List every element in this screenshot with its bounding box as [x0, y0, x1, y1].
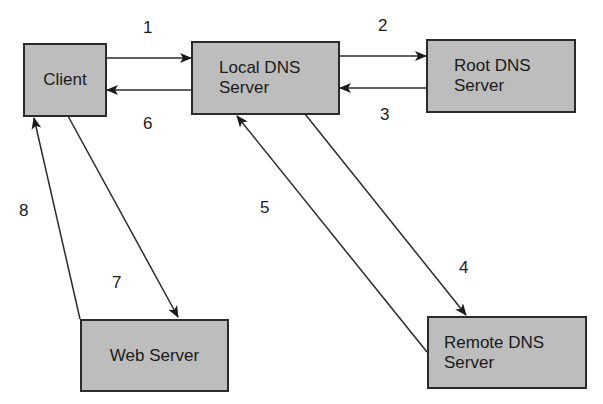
client-label: Client [43, 70, 86, 90]
step-label-1: 1 [143, 18, 152, 38]
remote-dns-label-line1: Remote DNS [444, 333, 544, 353]
step-label-5: 5 [260, 198, 269, 218]
root-dns-label-line2: Server [454, 76, 504, 96]
local-dns-label-line2: Server [219, 78, 269, 98]
step-label-7: 7 [112, 273, 121, 293]
root-dns-server-node: Root DNS Server [426, 39, 576, 113]
arrow-step-5 [237, 116, 427, 352]
web-server-label: Web Server [110, 346, 199, 366]
client-node: Client [23, 43, 107, 117]
web-server-node: Web Server [80, 319, 229, 392]
arrow-step-4 [305, 114, 466, 315]
step-label-3: 3 [380, 105, 389, 125]
arrow-step-8 [34, 118, 80, 319]
step-label-2: 2 [378, 16, 387, 36]
arrow-step-7 [68, 116, 178, 317]
root-dns-label-line1: Root DNS [454, 56, 531, 76]
step-label-8: 8 [19, 201, 28, 221]
remote-dns-server-node: Remote DNS Server [427, 316, 587, 389]
remote-dns-label-line2: Server [444, 353, 494, 373]
step-label-6: 6 [143, 114, 152, 134]
step-label-4: 4 [459, 258, 468, 278]
local-dns-server-node: Local DNS Server [191, 41, 340, 115]
local-dns-label-line1: Local DNS [219, 58, 300, 78]
